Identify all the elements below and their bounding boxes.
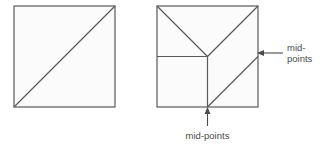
right-midpoints-annotation: mid- points: [257, 42, 313, 64]
bottom-label-line1: mid-points: [186, 130, 230, 141]
right-label-line2: points: [287, 53, 313, 64]
right-label-line1: mid-: [287, 42, 305, 53]
square-dissection-figure: mid- points mid-points: [0, 0, 323, 144]
up-arrow-icon: [205, 107, 211, 114]
bottom-midpoints-annotation: mid-points: [186, 107, 230, 141]
right-square-group: [157, 6, 258, 107]
left-square-group: [14, 6, 115, 107]
